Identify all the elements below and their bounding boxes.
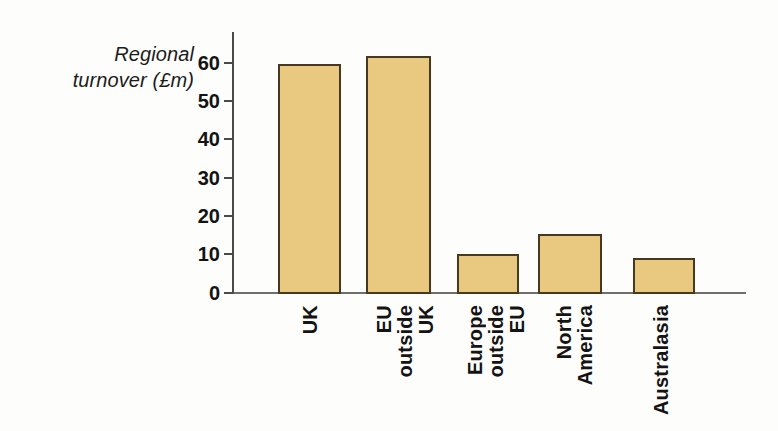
y-tick-label-60: 60 — [184, 52, 220, 75]
y-tick-30 — [224, 177, 234, 179]
x-label-eu-outside-uk: EUoutsideUK — [374, 305, 436, 378]
bar-chart: Regional turnover (£m) 0 10 20 30 40 50 … — [0, 0, 778, 431]
y-axis-title-line-2: turnover (£m) — [18, 68, 194, 94]
y-axis-title: Regional turnover (£m) — [18, 42, 194, 93]
x-label-line: Europe — [465, 305, 485, 375]
x-label-north-america: NorthAmerica — [554, 305, 595, 385]
y-tick-label-0: 0 — [184, 282, 220, 305]
x-label-line: North — [554, 305, 574, 359]
bar-eu-outside-uk — [366, 56, 431, 294]
y-axis-title-line-1: Regional — [18, 42, 194, 68]
x-label-line: EU — [507, 305, 527, 333]
y-tick-20 — [224, 215, 234, 217]
bar-uk — [278, 64, 341, 294]
x-label-line: outside — [395, 305, 415, 378]
x-label-line: outside — [486, 305, 506, 378]
x-label-line: UK — [416, 305, 436, 334]
y-tick-label-20: 20 — [184, 205, 220, 228]
y-tick-label-50: 50 — [184, 90, 220, 113]
y-tick-label-30: 30 — [184, 167, 220, 190]
x-label-uk: UK — [300, 305, 320, 334]
x-label-line: EU — [374, 305, 394, 333]
x-label-line: Australasia — [651, 305, 671, 415]
y-tick-60 — [224, 62, 234, 64]
y-tick-label-40: 40 — [184, 128, 220, 151]
y-tick-50 — [224, 100, 234, 102]
x-label-line: UK — [300, 305, 320, 334]
x-label-australasia: Australasia — [651, 305, 671, 415]
y-tick-10 — [224, 253, 234, 255]
bar-north-america — [538, 234, 602, 294]
x-label-line: America — [575, 305, 595, 385]
y-tick-label-10: 10 — [184, 243, 220, 266]
y-tick-0 — [224, 292, 234, 294]
y-tick-40 — [224, 138, 234, 140]
x-label-europe-outside-eu: EuropeoutsideEU — [465, 305, 527, 378]
bar-australasia — [633, 258, 695, 294]
bar-europe-outside-eu — [457, 254, 519, 294]
